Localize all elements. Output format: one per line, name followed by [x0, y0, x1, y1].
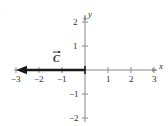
vector-c-label: C [53, 54, 60, 64]
y-tick-label-pos1: 1 [73, 42, 78, 51]
x-tick-label-neg3: −3 [11, 75, 21, 84]
vector-c-label-text: C [53, 53, 60, 64]
x-tick-label-pos2: 2 [129, 75, 134, 84]
y-axis-arrowhead [83, 15, 87, 20]
x-tick-label-pos3: 3 [152, 75, 157, 84]
x-tick-label-pos1: 1 [106, 75, 111, 84]
x-tick-label-neg1: −1 [57, 75, 67, 84]
vector-overarrow-icon [53, 49, 61, 54]
vector-c-arrowhead [16, 66, 27, 74]
y-tick-label-neg1: −1 [69, 90, 79, 99]
vector-diagram-figure: · −3 [0, 0, 168, 126]
y-tick-label-pos2: 2 [73, 18, 78, 27]
coordinate-plane-svg [0, 0, 168, 126]
vector-c [16, 66, 85, 74]
y-tick-label-neg2: −2 [69, 114, 79, 123]
y-axis-label: y [88, 10, 92, 19]
x-tick-label-neg2: −2 [34, 75, 44, 84]
x-axis-label: x [159, 62, 163, 71]
